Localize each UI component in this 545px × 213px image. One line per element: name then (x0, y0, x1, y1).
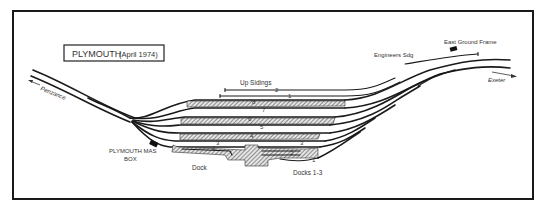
docks-1-3-label: Docks 1-3 (293, 169, 323, 176)
exeter-direction: Exeter (488, 72, 517, 83)
west-approach-tracks (31, 70, 135, 122)
dock-label: Dock (192, 164, 208, 171)
east-ground-frame: East Ground Frame (444, 39, 497, 52)
exeter-label: Exeter (488, 77, 506, 83)
east-ground-frame-label: East Ground Frame (444, 39, 497, 45)
penzance-label: Penzance (40, 85, 68, 101)
title-box: PLYMOUTH (April 1974) (64, 45, 164, 61)
platform-7-8 (187, 101, 345, 107)
up-sidings: Up Sidings 2 1 (220, 78, 400, 99)
dock-area: 4 2 1 Dock Docks 1-3 (172, 145, 323, 176)
east-throat-tracks (318, 59, 510, 158)
platform-5-6 (181, 118, 335, 124)
up-sidings-label: Up Sidings (240, 79, 272, 87)
engineers-sdg-label: Engineers Sdg (374, 52, 413, 58)
track-diagram: PLYMOUTH (April 1974) Penzance Up Siding… (0, 0, 545, 213)
title-main: PLYMOUTH (72, 49, 121, 59)
ground-frame-symbol (450, 46, 458, 52)
title-subtitle: (April 1974) (119, 50, 158, 59)
signal-box: PLYMOUTH MAS BOX (109, 139, 158, 162)
signal-box-label-2: BOX (124, 156, 137, 162)
signal-box-label-1: PLYMOUTH MAS (109, 148, 157, 154)
